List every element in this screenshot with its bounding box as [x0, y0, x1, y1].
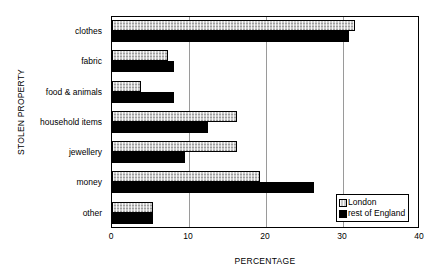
x-axis-title: PERCENTAGE — [111, 256, 419, 266]
bar-household-items-rest-of-england — [112, 122, 208, 133]
legend-label: rest of England — [348, 208, 405, 219]
bar-group — [112, 138, 418, 168]
y-tick-label: other — [83, 198, 102, 228]
x-axis-tick-labels: 010203040 — [0, 231, 436, 245]
legend-item: London — [339, 197, 405, 208]
bar-group — [112, 47, 418, 77]
bar-fabric-london — [112, 50, 168, 61]
y-tick-label: household items — [40, 107, 102, 137]
bar-money-rest-of-england — [112, 182, 314, 193]
bar-jewellery-london — [112, 141, 237, 152]
bar-group — [112, 78, 418, 108]
bar-jewellery-rest-of-england — [112, 152, 185, 163]
rest-of-england-swatch — [339, 210, 347, 218]
y-tick-label: fabric — [81, 46, 102, 76]
bar-money-london — [112, 171, 260, 182]
x-tick-label: 10 — [168, 231, 208, 241]
chart-legend: Londonrest of England — [336, 194, 409, 222]
stolen-property-bar-chart: STOLEN PROPERTY clothesfabricfood & anim… — [0, 0, 436, 278]
bar-fabric-rest-of-england — [112, 61, 174, 72]
bar-other-london — [112, 202, 153, 213]
x-tick-label: 40 — [399, 231, 436, 241]
bar-group — [112, 108, 418, 138]
y-tick-label: jewellery — [69, 137, 102, 167]
bar-food-animals-rest-of-england — [112, 92, 174, 103]
legend-item: rest of England — [339, 208, 405, 219]
x-tick-label: 20 — [245, 231, 285, 241]
bar-clothes-rest-of-england — [112, 31, 349, 42]
x-tick-label: 30 — [322, 231, 362, 241]
bar-clothes-london — [112, 20, 355, 31]
bar-other-rest-of-england — [112, 213, 153, 224]
x-tick-label: 0 — [91, 231, 131, 241]
bar-household-items-london — [112, 111, 237, 122]
bar-group — [112, 17, 418, 47]
y-tick-label: money — [76, 167, 102, 197]
y-tick-label: food & animals — [46, 77, 102, 107]
y-tick-label: clothes — [75, 16, 102, 46]
legend-label: London — [348, 197, 376, 208]
bar-food-animals-london — [112, 81, 141, 92]
london-swatch — [339, 199, 347, 207]
y-axis-category-labels: clothesfabricfood & animalshousehold ite… — [0, 16, 107, 228]
